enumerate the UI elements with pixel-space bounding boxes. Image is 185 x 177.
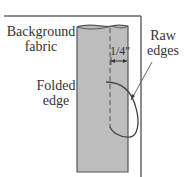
label-edge: edge — [34, 93, 78, 108]
label-raw: Raw — [143, 28, 183, 43]
label-measurement: 1/4" — [108, 44, 132, 59]
label-background-fabric: Background fabric — [6, 24, 76, 54]
label-fabric: fabric — [6, 39, 76, 54]
label-background: Background — [6, 24, 76, 39]
label-folded-edge: Folded edge — [34, 78, 78, 108]
label-edges: edges — [143, 43, 183, 58]
label-folded: Folded — [34, 78, 78, 93]
label-raw-edges: Raw edges — [143, 28, 183, 58]
